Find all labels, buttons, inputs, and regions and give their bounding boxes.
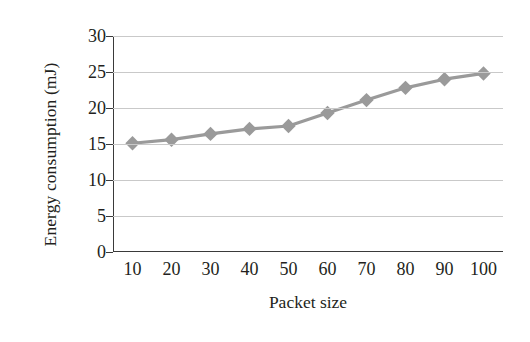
gridline [113, 216, 503, 217]
data-point-marker [281, 119, 295, 133]
x-axis-tick-label: 80 [397, 258, 415, 280]
y-axis-tick-label: 20 [88, 99, 106, 117]
x-axis-tick-label: 20 [163, 258, 181, 280]
x-axis-tick-labels: 102030405060708090100 [113, 258, 503, 284]
gridline [113, 144, 503, 145]
x-axis-tick-label: 40 [241, 258, 259, 280]
gridline [113, 180, 503, 181]
data-point-marker [359, 93, 373, 107]
data-point-marker [476, 66, 490, 80]
y-axis-tick-label: 15 [88, 135, 106, 153]
x-axis-tick-label: 30 [202, 258, 220, 280]
x-axis-tick-label: 50 [280, 258, 298, 280]
y-axis-tick-label: 10 [88, 171, 106, 189]
y-axis-tick-label: 30 [88, 27, 106, 45]
plot-area [113, 36, 503, 252]
y-axis-tickmark [106, 252, 113, 253]
y-axis-tick-label: 25 [88, 63, 106, 81]
x-axis-tick-label: 70 [358, 258, 376, 280]
data-point-marker [398, 81, 412, 95]
y-axis-tick-label: 0 [97, 243, 106, 261]
y-axis-tickmark [106, 144, 113, 145]
y-axis-tick-labels: 051015202530 [58, 0, 106, 342]
x-axis-tick-label: 90 [436, 258, 454, 280]
data-point-marker [242, 122, 256, 136]
y-axis-tickmark [106, 72, 113, 73]
y-axis-tickmark [106, 108, 113, 109]
y-axis-tick-label: 5 [97, 207, 106, 225]
data-point-marker [437, 72, 451, 86]
gridline [113, 72, 503, 73]
x-axis-tick-label: 60 [319, 258, 337, 280]
y-axis-tickmark [106, 180, 113, 181]
x-axis-title: Packet size [113, 292, 503, 313]
x-axis-tick-label: 100 [470, 258, 497, 280]
line-chart-figure: Energy consumption (mJ) 051015202530 102… [0, 0, 530, 342]
data-point-marker [203, 127, 217, 141]
y-axis-tickmark [106, 216, 113, 217]
gridline [113, 108, 503, 109]
gridline [113, 36, 503, 37]
y-axis-tickmark [106, 36, 113, 37]
x-axis-tick-label: 10 [124, 258, 142, 280]
